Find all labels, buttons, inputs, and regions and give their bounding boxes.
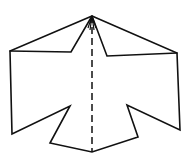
folded-bird-diagram [0,0,191,165]
outer-outline [10,16,180,152]
